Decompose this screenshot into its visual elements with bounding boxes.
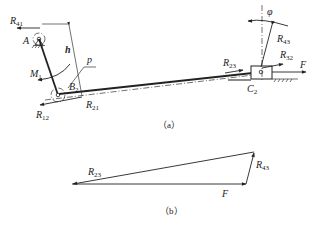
- label-h: h: [65, 44, 71, 55]
- label-f: F: [299, 59, 307, 70]
- polygon-r23-vector: [73, 152, 254, 184]
- r43-arrow: [261, 25, 272, 67]
- label-r12: R12: [35, 109, 50, 122]
- label-r41: R41: [9, 15, 24, 28]
- m1-moment-arrow: [38, 64, 70, 80]
- phi-angle-arc: [249, 20, 288, 26]
- connecting-rod: [59, 72, 262, 94]
- polygon-label-f: F: [221, 188, 229, 199]
- caption-b: （b）: [160, 206, 183, 216]
- polygon-label-r43: R43: [255, 159, 270, 172]
- polygon-r43-vector: [246, 153, 254, 184]
- pivot-a-icon: [32, 33, 45, 48]
- r23-arrow: [225, 70, 243, 73]
- label-p: p: [86, 54, 92, 65]
- slider-crank-force-diagram: R41 A h p M1 B2 R12 R21 φ R43 R32 R23 F …: [0, 0, 319, 236]
- label-r23: R23: [222, 57, 237, 70]
- pin-b-icon: [51, 88, 65, 102]
- label-m1: M1: [29, 68, 42, 81]
- mechanism-part-a: R41 A h p M1 B2 R12 R21 φ R43 R32 R23 F …: [9, 5, 307, 130]
- label-r43: R43: [276, 33, 291, 46]
- force-polygon-part-b: R23 R43 F （b）: [72, 152, 270, 216]
- polygon-label-r23: R23: [87, 166, 102, 179]
- label-c2: C2: [247, 83, 258, 96]
- label-r21: R21: [85, 99, 100, 112]
- label-a: A: [22, 35, 30, 46]
- label-r32: R32: [279, 49, 294, 62]
- caption-a: （a）: [158, 120, 180, 130]
- label-phi: φ: [267, 6, 273, 17]
- crank-link: [39, 39, 58, 95]
